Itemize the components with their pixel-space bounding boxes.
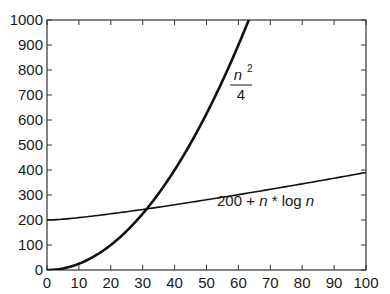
y-tick-label: 200 [18, 211, 43, 228]
y-tick-label: 0 [35, 261, 43, 278]
y-tick-label: 600 [18, 111, 43, 128]
x-tick-label: 10 [71, 274, 88, 291]
chart: 01002003004005006007008009001000 0102030… [0, 0, 390, 294]
plot-border [47, 20, 366, 270]
curve-nlogn [47, 173, 366, 221]
x-tick-label: 90 [326, 274, 343, 291]
label-nlogn: 200 + n * log n [217, 192, 314, 209]
y-axis: 01002003004005006007008009001000 [10, 11, 366, 278]
plot-area [47, 14, 366, 270]
x-axis: 0102030405060708090100 [43, 20, 379, 291]
x-tick-label: 0 [43, 274, 51, 291]
curve-quadratic [47, 14, 251, 270]
x-tick-label: 50 [198, 274, 215, 291]
y-tick-label: 700 [18, 86, 43, 103]
x-tick-label: 70 [262, 274, 279, 291]
curve-labels: n 2 4 200 + n * log n [217, 63, 314, 209]
x-tick-label: 20 [102, 274, 119, 291]
x-tick-label: 40 [166, 274, 183, 291]
y-tick-label: 300 [18, 186, 43, 203]
x-tick-label: 60 [230, 274, 247, 291]
y-tick-label: 1000 [10, 11, 43, 28]
label-quadratic-denominator: 4 [237, 86, 245, 103]
label-quadratic-numerator: n [234, 66, 242, 83]
label-quadratic-exponent: 2 [247, 63, 253, 74]
y-tick-label: 500 [18, 136, 43, 153]
y-tick-label: 900 [18, 36, 43, 53]
y-tick-label: 100 [18, 236, 43, 253]
x-tick-label: 80 [294, 274, 311, 291]
y-tick-label: 800 [18, 61, 43, 78]
y-tick-label: 400 [18, 161, 43, 178]
x-tick-label: 100 [353, 274, 378, 291]
x-tick-label: 30 [134, 274, 151, 291]
plot-frame [47, 20, 366, 270]
